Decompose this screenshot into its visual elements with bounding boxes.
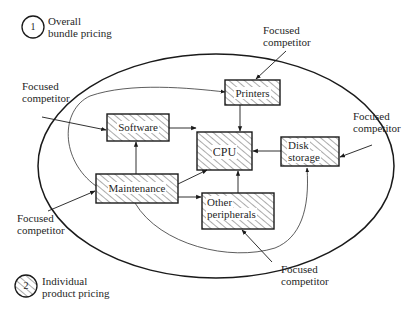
competitor-label-right: Focused competitor [353, 110, 401, 134]
legend-individual-line2: product pricing [42, 287, 110, 299]
competitor-left-lower-line2: competitor [17, 224, 65, 236]
printers-text: Printers [234, 87, 270, 99]
arrow-competitor-to-printers [256, 51, 286, 79]
other-peripherals-label: Other peripherals [206, 196, 272, 220]
overall-badge-number: 1 [28, 22, 38, 32]
legend-overall-line1: Overall [48, 15, 112, 27]
arrow-competitor-to-disk [340, 145, 372, 157]
disk-line2: storage [287, 151, 321, 163]
arrow-competitor-to-maintenance [48, 191, 95, 211]
cpu-label: CPU [197, 146, 252, 158]
competitor-right-line1: Focused [353, 110, 401, 122]
cpu-text: CPU [212, 145, 237, 159]
printers-label: Printers [225, 87, 280, 99]
maintenance-label: Maintenance [96, 182, 178, 194]
competitor-bottom-line1: Focused [281, 263, 329, 275]
peripherals-line2: peripherals [206, 208, 257, 220]
competitor-label-left-lower: Focused competitor [17, 212, 65, 236]
competitor-right-line2: competitor [353, 122, 401, 134]
competitor-top-line2: competitor [263, 36, 311, 48]
disk-line1: Disk [287, 139, 310, 151]
competitor-bottom-line2: competitor [281, 275, 329, 287]
software-text: Software [117, 121, 159, 133]
competitor-label-top: Focused competitor [263, 24, 311, 48]
legend-overall-line2: bundle pricing [48, 27, 112, 39]
software-label: Software [107, 121, 169, 133]
competitor-left-lower-line1: Focused [17, 212, 65, 224]
competitor-top-line1: Focused [263, 24, 311, 36]
competitor-label-left-upper: Focused competitor [22, 80, 70, 104]
peripherals-line1: Other [206, 196, 233, 208]
disk-storage-label: Disk storage [287, 139, 335, 163]
maintenance-text: Maintenance [108, 182, 167, 194]
legend-overall-label: Overall bundle pricing [48, 15, 112, 39]
competitor-left-upper-line2: competitor [22, 92, 70, 104]
competitor-label-bottom: Focused competitor [281, 263, 329, 287]
individual-badge-number: 2 [21, 281, 31, 291]
competitor-left-upper-line1: Focused [22, 80, 70, 92]
legend-individual-line1: Individual [42, 275, 110, 287]
arrow-maintenance-to-cpu [178, 170, 207, 184]
legend-individual-label: Individual product pricing [42, 275, 110, 299]
arrow-competitor-to-peripherals [242, 230, 272, 262]
